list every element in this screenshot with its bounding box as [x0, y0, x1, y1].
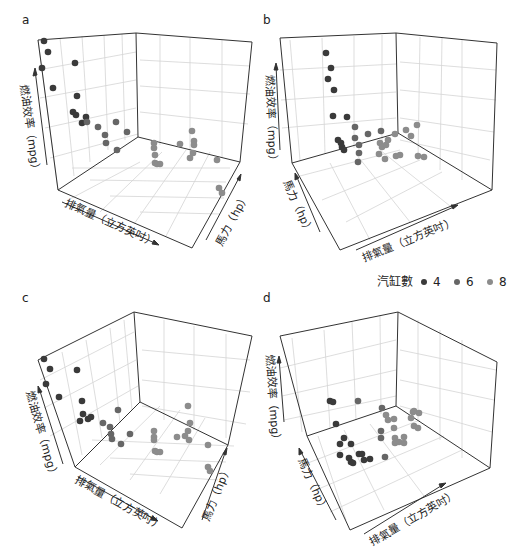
legend: 汽缸數 4 6 8: [377, 274, 507, 289]
legend-label-6: 6: [466, 275, 474, 289]
panel-d: d: [263, 291, 497, 549]
legend-label-4: 4: [433, 275, 441, 289]
figure-canvas: a: [0, 0, 520, 556]
axis-label-mpg-c: 燃油效率（mpg）: [23, 389, 61, 480]
panel-label-d: d: [263, 291, 271, 305]
axis-label-disp-a: 排氣量（立方英吋）: [63, 196, 159, 249]
axis-label-disp-c: 排氣量（立方英吋）: [73, 472, 166, 532]
panel-label-a: a: [22, 13, 29, 27]
legend-swatch-4: [421, 279, 427, 285]
panel-label-c: c: [22, 291, 29, 305]
legend-swatch-8: [487, 279, 493, 285]
axis-label-hp-c: 馬力（hp）: [200, 465, 234, 524]
panel-c: c: [22, 291, 252, 533]
axis-label-hp-d: 馬力（hp）: [295, 456, 330, 514]
axis-label-disp-d: 排氣量（立方英吋）: [367, 487, 460, 549]
legend-title: 汽缸數: [377, 274, 413, 289]
axis-label-hp-b: 馬力（hp）: [280, 178, 315, 236]
panel-label-b: b: [263, 13, 271, 27]
points-a: [39, 38, 226, 197]
axis-label-mpg-a: 燃油效率（mpg）: [17, 83, 43, 175]
legend-swatch-6: [454, 279, 460, 285]
axis-label-disp-b: 排氣量（立方英吋）: [360, 215, 457, 265]
panel-b: b: [263, 13, 497, 265]
panel-a: a: [17, 13, 252, 249]
legend-label-8: 8: [499, 275, 507, 289]
